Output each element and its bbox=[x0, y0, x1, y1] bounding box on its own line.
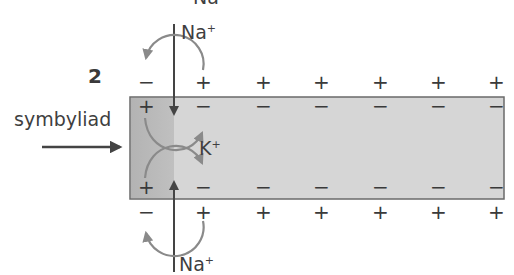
charge-sign: − bbox=[138, 202, 154, 222]
charge-sign: + bbox=[138, 177, 154, 197]
charge-sign: + bbox=[195, 72, 211, 92]
charge-sign: − bbox=[138, 72, 154, 92]
ion-symbol: Na bbox=[181, 21, 207, 43]
ion-label-na-top: Na+ bbox=[181, 23, 216, 42]
charge-sign: − bbox=[255, 96, 271, 116]
ion-label-partial-top: Na bbox=[193, 0, 219, 7]
charge-sign: − bbox=[372, 96, 388, 116]
charge-sign: − bbox=[488, 177, 504, 197]
charge-sign: + bbox=[430, 202, 446, 222]
charge-sign: + bbox=[195, 202, 211, 222]
charge-sign: + bbox=[255, 72, 271, 92]
charge-sign: − bbox=[313, 96, 329, 116]
charge-sign: − bbox=[488, 96, 504, 116]
charge-sign: + bbox=[313, 202, 329, 222]
ion-symbol: K bbox=[199, 137, 211, 159]
charge-sign: − bbox=[430, 96, 446, 116]
charge-sign: + bbox=[255, 202, 271, 222]
ion-symbol: Na bbox=[179, 253, 205, 275]
charge-sign: − bbox=[372, 177, 388, 197]
charge-sign: + bbox=[372, 72, 388, 92]
charge-sign: − bbox=[255, 177, 271, 197]
charge-sign: + bbox=[313, 72, 329, 92]
charge-sign: + bbox=[430, 72, 446, 92]
ion-charge: + bbox=[207, 22, 216, 35]
charge-sign: − bbox=[195, 177, 211, 197]
stimulus-label: symbyliad bbox=[14, 110, 111, 129]
ion-charge: + bbox=[205, 254, 214, 267]
charge-sign: + bbox=[488, 72, 504, 92]
charge-sign: + bbox=[138, 96, 154, 116]
ion-charge: + bbox=[211, 138, 220, 151]
charge-sign: − bbox=[195, 96, 211, 116]
nerve-impulse-diagram: Na Na+ Na+ K+ 2 symbyliad − + + + + + + … bbox=[0, 0, 514, 275]
charge-sign: + bbox=[372, 202, 388, 222]
ion-label-na-bottom: Na+ bbox=[179, 255, 214, 274]
step-number: 2 bbox=[88, 66, 102, 86]
ion-label-k: K+ bbox=[199, 139, 221, 158]
charge-sign: + bbox=[488, 202, 504, 222]
charge-sign: − bbox=[313, 177, 329, 197]
charge-sign: − bbox=[430, 177, 446, 197]
diagram-graphics bbox=[0, 0, 514, 275]
